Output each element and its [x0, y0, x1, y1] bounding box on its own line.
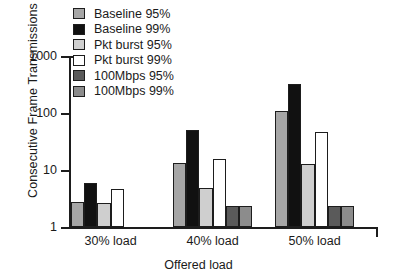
legend: Baseline 95%Baseline 99%Pkt burst 95%Pkt…	[73, 6, 174, 99]
x-group-label: 50% load	[289, 234, 341, 248]
x-axis-title: Offered load	[0, 258, 397, 272]
bar	[288, 84, 301, 227]
legend-item: Baseline 95%	[73, 6, 174, 22]
bar	[84, 183, 97, 227]
legend-label: Baseline 99%	[94, 23, 170, 36]
bar	[71, 202, 84, 227]
x-axis-right-cap	[376, 227, 378, 237]
legend-item: Baseline 99%	[73, 22, 174, 38]
bar	[341, 206, 354, 227]
legend-item: 100Mbps 99%	[73, 84, 174, 100]
bar-chart: Consecutive Frame Transmissions 10001001…	[0, 0, 397, 279]
bar	[111, 189, 124, 227]
bar	[199, 188, 212, 227]
y-axis-title: Consecutive Frame Transmissions	[26, 8, 40, 198]
bar	[213, 159, 226, 227]
bar	[315, 132, 328, 227]
bar	[173, 163, 186, 227]
legend-label: 100Mbps 99%	[94, 85, 174, 98]
legend-swatch	[73, 86, 85, 97]
x-axis-line	[69, 227, 378, 229]
bar	[239, 206, 252, 227]
bar	[226, 206, 239, 227]
bar	[186, 130, 199, 227]
bar	[275, 111, 288, 227]
legend-swatch	[73, 55, 85, 66]
x-group-label: 40% load	[187, 234, 239, 248]
y-tick-label: 10	[43, 163, 57, 177]
bar	[97, 203, 110, 227]
legend-label: 100Mbps 95%	[94, 70, 174, 83]
legend-swatch	[73, 24, 85, 35]
y-tick-label: 100	[36, 106, 57, 120]
y-tick-label: 1000	[29, 49, 57, 63]
x-group-label: 30% load	[85, 234, 137, 248]
legend-swatch	[73, 70, 85, 81]
legend-label: Pkt burst 95%	[94, 39, 172, 52]
legend-item: Pkt burst 95%	[73, 37, 174, 53]
legend-label: Pkt burst 99%	[94, 54, 172, 67]
legend-swatch	[73, 39, 85, 50]
y-tick-label: 1	[50, 220, 57, 234]
legend-item: Pkt burst 99%	[73, 53, 174, 69]
legend-item: 100Mbps 95%	[73, 68, 174, 84]
legend-label: Baseline 95%	[94, 8, 170, 21]
bar	[301, 164, 314, 227]
bar	[328, 206, 341, 227]
legend-swatch	[73, 8, 85, 19]
y-tick-mark	[61, 227, 70, 229]
